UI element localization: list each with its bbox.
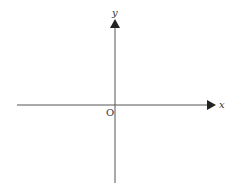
y-axis-label: y <box>111 7 118 18</box>
x-axis-label: x <box>219 99 225 110</box>
coordinate-plane: x y O <box>0 0 238 185</box>
y-axis-arrow-icon <box>110 19 120 28</box>
origin-label: O <box>106 107 114 118</box>
x-axis-arrow-icon <box>207 100 216 110</box>
